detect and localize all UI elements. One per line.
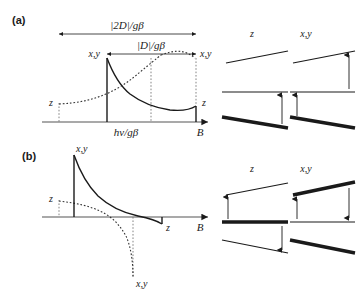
level-lower-thick — [222, 117, 288, 128]
level-lower-thick — [290, 117, 355, 128]
span-outer-2D: |2D|/gβ — [59, 19, 196, 34]
level-diagram-b-z-label: z — [249, 163, 254, 174]
level-diagram-a-z-label: z — [249, 28, 254, 39]
z-label-right-a: z — [201, 97, 206, 108]
level-diagram-b-z: z — [222, 163, 288, 253]
panel-a: (a) |2D|/gβ |D|/gβ B hν/gβ x,y x,y z z — [12, 14, 212, 138]
figure-root: (a) |2D|/gβ |D|/gβ B hν/gβ x,y x,y z z — [0, 0, 361, 300]
xy-decay-a — [107, 58, 196, 110]
level-upper-thick — [293, 182, 355, 195]
xy-label-left-a: x,y — [88, 48, 101, 59]
z-trace-a-tail — [161, 51, 195, 58]
level-diagram-a-z: z — [222, 28, 288, 128]
z-trace-a — [59, 55, 161, 104]
span-inner-label: |D|/gβ — [137, 39, 166, 51]
level-lower-thick — [290, 240, 355, 253]
axis-b-label-a: B — [197, 126, 204, 138]
center-field-label-a: hν/gβ — [114, 126, 139, 138]
level-diagram-a-xy: x,y — [290, 28, 355, 128]
z-label-left-a: z — [48, 97, 53, 108]
level-upper-thin — [226, 183, 288, 195]
span-outer-label: |2D|/gβ — [110, 19, 144, 31]
level-upper-thin — [226, 51, 288, 63]
xy-label-bottom-b: x,y — [135, 278, 148, 289]
xy-label-right-a: x,y — [199, 48, 212, 59]
level-diagram-a-xy-label: x,y — [299, 28, 312, 39]
figure-svg: (a) |2D|/gβ |D|/gβ B hν/gβ x,y x,y z z — [0, 0, 361, 300]
panel-a-tag: (a) — [12, 14, 26, 26]
level-lower-thin — [222, 240, 288, 253]
xy-decay-b — [74, 155, 162, 224]
z-label-right-b: z — [165, 222, 170, 233]
xy-label-top-b: x,y — [75, 143, 88, 154]
level-diagram-b-xy-label: x,y — [299, 163, 312, 174]
axis-b-label-b: B — [197, 221, 204, 233]
z-label-left-b: z — [48, 193, 53, 204]
level-diagram-b-xy: x,y — [290, 163, 355, 253]
panel-b-tag: (b) — [22, 150, 36, 162]
level-upper-thin — [293, 51, 355, 63]
z-trace-b — [59, 201, 133, 277]
panel-b: (b) B x,y x,y z z — [22, 143, 208, 289]
